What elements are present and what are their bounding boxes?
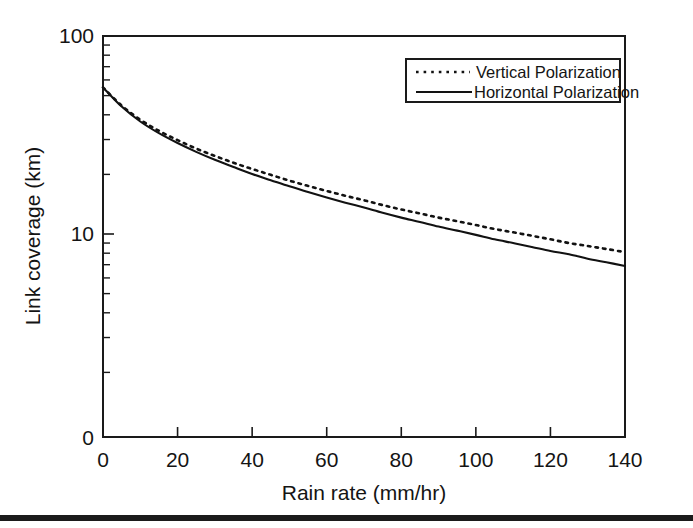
x-tick-label: 120 xyxy=(533,448,568,471)
chart-legend: Vertical Polarization Horizontal Polariz… xyxy=(406,59,639,102)
y-origin-label: 0 xyxy=(82,426,94,449)
legend-label-horizontal-polarization: Horizontal Polarization xyxy=(474,83,639,101)
y-tick-label: 10 xyxy=(71,222,94,245)
x-tick-label: 100 xyxy=(458,448,493,471)
legend-label-vertical-polarization: Vertical Polarization xyxy=(476,63,621,81)
x-tick-label: 140 xyxy=(607,448,642,471)
chart-figure: 100100 020406080100120140 Rain rate (mm/… xyxy=(0,0,693,528)
x-tick-label: 20 xyxy=(166,448,189,471)
x-tick-label: 60 xyxy=(315,448,338,471)
y-axis-title: Link coverage (km) xyxy=(21,147,44,326)
x-tick-label: 80 xyxy=(390,448,413,471)
x-axis-title: Rain rate (mm/hr) xyxy=(282,481,447,504)
page-bottom-rule xyxy=(0,515,693,521)
chart-canvas: 100100 020406080100120140 Rain rate (mm/… xyxy=(0,0,693,528)
x-tick-label: 40 xyxy=(240,448,263,471)
x-tick-label: 0 xyxy=(97,448,109,471)
y-tick-label: 100 xyxy=(59,24,94,47)
